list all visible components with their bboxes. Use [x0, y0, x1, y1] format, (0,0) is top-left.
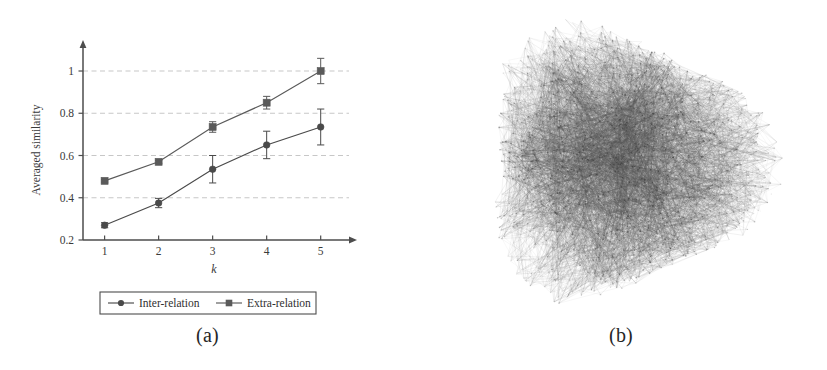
y-axis-arrow [80, 40, 87, 48]
y-tick-label: 0.2 [60, 234, 75, 246]
x-tick-label: 2 [156, 245, 162, 257]
network-edges [495, 19, 782, 303]
legend-marker-circle [118, 300, 124, 306]
y-tick-label: 0.6 [60, 150, 75, 162]
legend-label: Extra-relation [247, 297, 311, 309]
legend-marker-square [226, 300, 233, 307]
data-point-circle [209, 166, 216, 173]
legend-label: Inter-relation [139, 297, 200, 309]
y-tick-label: 1 [68, 65, 74, 77]
subcaption-a: (a) [0, 324, 415, 347]
y-tick-label: 0.8 [60, 107, 75, 119]
data-point-circle [317, 124, 324, 131]
averaged-similarity-chart: 0.20.40.60.8112345 Averaged similarityk … [0, 0, 415, 320]
x-tick-label: 4 [264, 245, 270, 257]
chart-series [101, 58, 324, 228]
data-point-square [101, 177, 108, 184]
chart-axis-titles: Averaged similarityk [30, 104, 217, 276]
chart-gridlines [83, 71, 349, 198]
data-point-circle [155, 200, 162, 207]
x-tick-label: 1 [102, 245, 108, 257]
chart-tick-marks [79, 71, 321, 240]
y-tick-label: 0.4 [60, 192, 75, 204]
chart-tick-labels: 0.20.40.60.8112345 [60, 65, 324, 257]
chart-legend: Inter-relationExtra-relation [100, 292, 316, 314]
data-point-square [155, 158, 162, 165]
data-point-circle [101, 222, 108, 229]
data-point-circle [263, 142, 270, 149]
subcaption-b: (b) [415, 324, 827, 347]
y-axis-title: Averaged similarity [30, 104, 43, 195]
x-tick-label: 5 [318, 245, 324, 257]
panel-a-chart: 0.20.40.60.8112345 Averaged similarityk … [0, 0, 415, 370]
x-axis-arrow [349, 237, 357, 244]
x-axis-title: k [211, 262, 217, 276]
x-tick-label: 3 [210, 245, 216, 257]
figure-root: 0.20.40.60.8112345 Averaged similarityk … [0, 0, 827, 370]
data-point-square [263, 99, 270, 106]
network-hairball-graph [415, 0, 827, 320]
data-point-square [209, 123, 216, 130]
data-point-square [317, 68, 324, 75]
chart-axes [80, 40, 357, 243]
panel-b-network: (b) [415, 0, 827, 370]
